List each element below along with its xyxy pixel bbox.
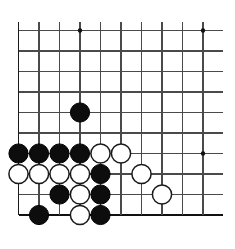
go-board-diagram xyxy=(0,0,235,249)
white-stone xyxy=(132,164,151,183)
white-stone xyxy=(29,164,48,183)
stone-body xyxy=(9,144,28,163)
stone-body xyxy=(91,185,110,204)
black-stone xyxy=(91,164,110,183)
stone-body xyxy=(152,185,171,204)
stone-body xyxy=(70,164,89,183)
stone-body xyxy=(111,144,130,163)
white-stone xyxy=(70,185,89,204)
stone-body xyxy=(50,185,69,204)
stone-body xyxy=(70,103,89,122)
black-stone xyxy=(91,185,110,204)
stone-body xyxy=(9,164,28,183)
stone-body xyxy=(29,144,48,163)
stone-body xyxy=(70,185,89,204)
go-board-canvas xyxy=(0,0,235,249)
black-stone xyxy=(50,144,69,163)
grid-lines-group xyxy=(19,22,224,216)
stone-body xyxy=(91,144,110,163)
black-stone xyxy=(29,144,48,163)
stone-body xyxy=(29,205,48,224)
stones-group xyxy=(9,103,172,225)
stone-body xyxy=(91,164,110,183)
white-stone xyxy=(70,164,89,183)
stone-body xyxy=(91,205,110,224)
stone-body xyxy=(50,164,69,183)
stone-body xyxy=(50,144,69,163)
black-stone xyxy=(70,144,89,163)
black-stone xyxy=(9,144,28,163)
hoshi-star-point xyxy=(78,28,82,32)
black-stone xyxy=(91,205,110,224)
white-stone xyxy=(70,205,89,224)
stone-body xyxy=(132,164,151,183)
white-stone xyxy=(152,185,171,204)
white-stone xyxy=(111,144,130,163)
black-stone xyxy=(50,185,69,204)
stone-body xyxy=(29,164,48,183)
stone-body xyxy=(70,205,89,224)
white-stone xyxy=(91,144,110,163)
white-stone xyxy=(50,164,69,183)
black-stone xyxy=(70,103,89,122)
hoshi-star-point xyxy=(201,28,205,32)
hoshi-star-point xyxy=(201,151,205,155)
stone-body xyxy=(70,144,89,163)
black-stone xyxy=(29,205,48,224)
white-stone xyxy=(9,164,28,183)
